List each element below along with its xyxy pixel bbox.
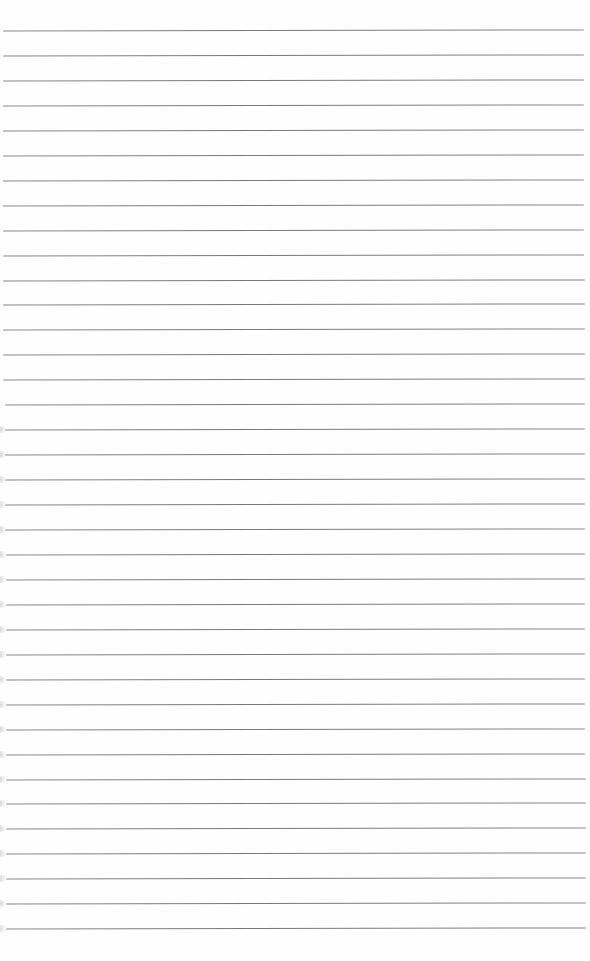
ruled-line	[5, 478, 585, 481]
ruled-line	[3, 229, 584, 232]
ruled-line	[6, 728, 585, 731]
ruled-line	[6, 903, 586, 906]
ruled-line	[5, 503, 585, 506]
ruled-line	[3, 329, 585, 332]
ruled-line	[3, 79, 584, 82]
ruled-line	[3, 104, 584, 107]
ruled-line	[6, 928, 586, 931]
ruled-line	[3, 254, 584, 257]
ruled-line	[3, 354, 585, 357]
ruled-line	[6, 628, 585, 631]
edge-notch	[0, 426, 7, 433]
ruled-line	[3, 154, 584, 157]
ruled-line	[6, 878, 586, 881]
edge-notch	[0, 925, 7, 932]
ruled-line	[6, 778, 586, 781]
edge-notch	[0, 476, 7, 483]
edge-notch	[0, 651, 7, 658]
edge-notch	[0, 900, 7, 907]
ruled-line	[3, 179, 584, 182]
edge-notch	[0, 751, 7, 758]
lined-paper-sheet	[0, 0, 590, 961]
ruled-line	[6, 828, 586, 831]
edge-notch	[0, 526, 7, 533]
edge-notch	[0, 776, 7, 783]
ruled-line	[3, 204, 584, 207]
ruled-line	[5, 528, 585, 531]
edge-notch	[0, 676, 7, 683]
edge-notch	[0, 850, 7, 857]
edge-notch	[0, 726, 7, 733]
ruled-line	[5, 429, 585, 432]
edge-notch	[0, 626, 7, 633]
ruled-line	[6, 703, 585, 706]
edge-notch	[0, 825, 7, 832]
edge-notch	[0, 800, 7, 807]
ruled-line	[5, 453, 585, 456]
ruled-line	[6, 603, 585, 606]
ruled-line	[6, 653, 585, 656]
ruled-line	[6, 678, 585, 681]
ruled-line	[3, 29, 584, 32]
ruled-line	[6, 553, 585, 556]
ruled-line	[3, 304, 585, 307]
ruled-line	[6, 853, 586, 856]
ruled-line	[5, 404, 585, 407]
edge-notch	[0, 875, 7, 882]
ruled-line	[6, 753, 585, 756]
ruled-line	[3, 129, 584, 132]
edge-notch	[0, 601, 7, 608]
edge-notch	[0, 501, 7, 508]
edge-notch	[0, 701, 7, 708]
edge-notch	[0, 451, 7, 458]
ruled-line	[6, 578, 585, 581]
ruled-line	[6, 803, 586, 806]
ruled-line	[3, 379, 585, 382]
edge-notch	[0, 551, 7, 558]
ruled-line	[3, 54, 584, 57]
ruled-line	[3, 279, 585, 282]
edge-notch	[0, 576, 7, 583]
